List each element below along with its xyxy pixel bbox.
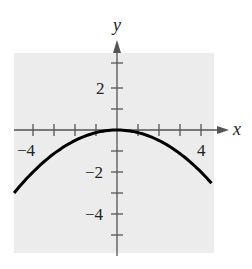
x-tick-label-4: 4 [197,141,206,160]
y-tick-label-neg4: −4 [85,205,104,224]
x-axis-arrow-icon [217,126,229,134]
y-tick-label-2: 2 [96,79,105,98]
y-tick-label-neg2: −2 [85,163,103,182]
x-tick-label-neg4: −4 [17,141,36,160]
y-axis-arrow-icon [113,40,121,53]
plot-background [14,53,214,253]
graph: x y −4 4 2 −2 −4 [0,0,252,269]
x-axis-label: x [232,119,241,139]
y-axis-label: y [111,15,121,35]
